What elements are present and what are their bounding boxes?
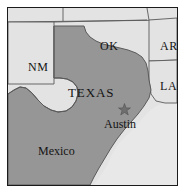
map-label-arkansas: AR: [160, 40, 178, 52]
map-label-louisiana: LA: [160, 80, 177, 92]
star-icon: [118, 103, 131, 116]
map-label-new-mexico: NM: [28, 61, 49, 73]
region-new-mexico: [8, 22, 54, 84]
map-figure: TEXAS OK NM AR LA Mexico Austin: [0, 0, 187, 193]
map-label-mexico: Mexico: [38, 145, 75, 157]
map-label-austin: Austin: [104, 118, 136, 130]
map-frame: TEXAS OK NM AR LA Mexico Austin: [7, 7, 178, 186]
map-label-oklahoma: OK: [100, 40, 119, 52]
map-label-texas: TEXAS: [68, 86, 114, 99]
